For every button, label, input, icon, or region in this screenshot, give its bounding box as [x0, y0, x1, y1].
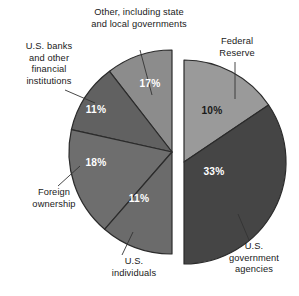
slice-value-us-government-agencies: 33% [196, 166, 232, 178]
slice-value-other: 17% [132, 78, 168, 90]
slice-label-other: Other, including state and local governm… [74, 7, 204, 30]
slice-value-foreign-ownership: 18% [78, 157, 114, 169]
pie-chart: Other, including state and local governm… [0, 0, 299, 296]
slice-value-us-individuals: 11% [121, 193, 157, 205]
slice-label-us-banks: U.S. banks and other financial instituti… [3, 41, 95, 87]
slice-value-federal-reserve: 10% [194, 105, 230, 117]
slice-label-us-government-agencies: U.S. government agencies [212, 241, 296, 276]
slice-label-foreign-ownership: Foreign ownership [6, 187, 102, 210]
slice-label-federal-reserve: Federal Reserve [204, 36, 270, 59]
slice-label-us-individuals: U.S. individuals [92, 256, 176, 279]
slice-value-us-banks: 11% [78, 104, 114, 116]
